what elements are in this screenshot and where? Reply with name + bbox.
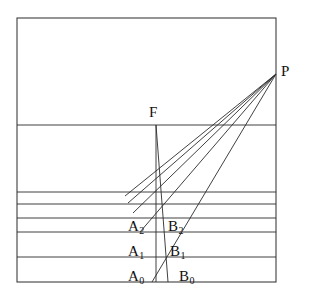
label-b0-subscript: 0: [190, 275, 195, 286]
geometry-diagram: PFA2B2A1B1A0B0: [0, 0, 312, 305]
fan-ray-3: [128, 74, 276, 203]
label-a2-subscript: 2: [139, 225, 144, 236]
label-b0: B0: [179, 268, 195, 286]
figure-container: PFA2B2A1B1A0B0: [0, 0, 312, 305]
label-a1: A1: [128, 243, 144, 261]
label-a1-subscript: 1: [139, 250, 144, 261]
outer-frame-rectangle: [17, 18, 276, 282]
label-a0-subscript: 0: [139, 275, 144, 286]
fan-ray-1: [140, 74, 276, 232]
label-b2-subscript: 2: [179, 225, 184, 236]
label-b1: B1: [170, 243, 186, 261]
line-from-f: [156, 125, 168, 282]
label-f: F: [149, 104, 157, 120]
label-b2: B2: [168, 218, 184, 236]
fan-line-group-from-p: [125, 74, 276, 282]
label-b1-subscript: 1: [181, 250, 186, 261]
horizontal-line-group: [17, 125, 276, 257]
label-p: P: [281, 63, 289, 79]
fan-ray-4: [125, 74, 276, 196]
label-a0: A0: [128, 268, 144, 286]
label-a2: A2: [128, 218, 144, 236]
